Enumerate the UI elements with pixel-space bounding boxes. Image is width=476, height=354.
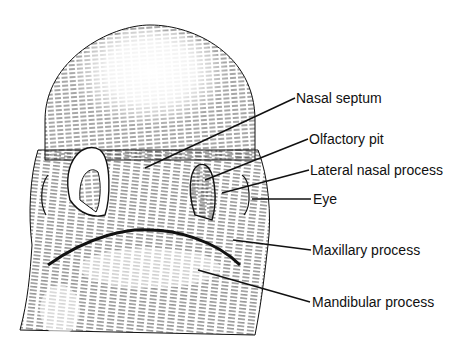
label-maxillary-process: Maxillary process <box>312 242 420 258</box>
right-olfactory-pit <box>190 164 215 220</box>
label-olfactory-pit: Olfactory pit <box>309 131 384 147</box>
face-region <box>20 150 270 335</box>
label-nasal-septum: Nasal septum <box>296 90 382 106</box>
label-lateral-nasal-process: Lateral nasal process <box>310 162 443 178</box>
left-olfactory-pit <box>68 147 109 216</box>
head-dome <box>45 25 255 160</box>
label-eye: Eye <box>313 191 337 207</box>
label-mandibular-process: Mandibular process <box>312 294 434 310</box>
figure-canvas: Nasal septum Olfactory pit Lateral nasal… <box>0 0 476 354</box>
